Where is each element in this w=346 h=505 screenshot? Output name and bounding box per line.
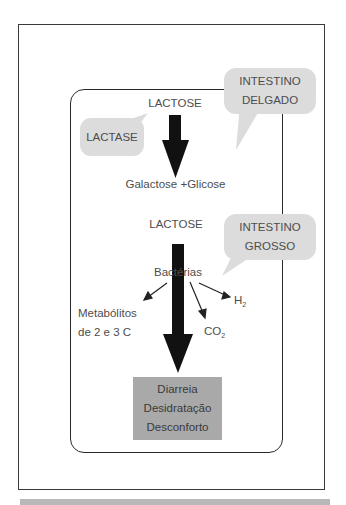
outcome-item: Desconforto (146, 418, 208, 437)
label-co2: CO2 (204, 324, 225, 343)
label-bacterias: Bactérias (146, 265, 210, 279)
label-metabolites-2: de 2 e 3 C (78, 325, 131, 339)
label-metabolites-1: Metabólitos (78, 306, 137, 320)
bubble-line: GROSSO (245, 237, 295, 256)
outcome-item: Desidratação (144, 399, 212, 418)
outcome-item: Diarreia (157, 380, 197, 399)
h2-sub: 2 (242, 301, 246, 308)
bubble-intestino-grosso: INTESTINO GROSSO (224, 214, 316, 260)
label-h2: H2 (234, 293, 246, 312)
co2-sub: 2 (221, 332, 225, 339)
label-lactose-top: LACTOSE (145, 96, 205, 110)
label-lactose-bottom: LACTOSE (146, 217, 206, 231)
bubble-line: INTESTINO (239, 72, 300, 91)
bottom-bar (20, 499, 330, 505)
bubble-line: DELGADO (242, 91, 298, 110)
label-products: Galactose +Glicose (118, 177, 233, 191)
outcomes-box: Diarreia Desidratação Desconforto (133, 377, 222, 440)
bubble-line: INTESTINO (239, 218, 300, 237)
bubble-lactase: LACTASE (80, 118, 144, 156)
co2-main: CO (204, 325, 221, 337)
bubble-line: LACTASE (86, 128, 138, 147)
bubble-intestino-delgado: INTESTINO DELGADO (224, 68, 316, 114)
